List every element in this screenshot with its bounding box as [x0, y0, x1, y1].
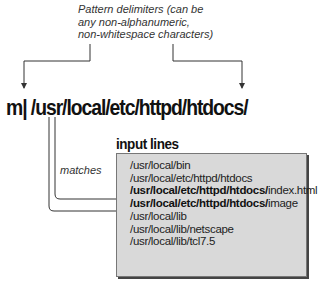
input-line-match: /usr/local/etc/httpd/htdocs/image	[130, 197, 317, 210]
matches-label: matches	[60, 164, 102, 176]
input-line: /usr/local/lib/netscape	[130, 223, 317, 236]
left-delimiter-arrow	[24, 44, 90, 88]
input-line: /usr/local/lib/tcl7.5	[130, 235, 317, 248]
input-lines-title: input lines	[116, 135, 179, 152]
right-delimiter-arrow	[173, 44, 242, 88]
input-line: /usr/local/lib	[130, 210, 317, 223]
input-line: /usr/local/bin	[130, 159, 317, 172]
match-command: m| /usr/local/etc/httpd/htdocs/	[6, 95, 248, 121]
input-lines-list: /usr/local/bin /usr/local/etc/httpd/htdo…	[130, 159, 317, 248]
input-line-match: /usr/local/etc/httpd/htdocs/index.html	[130, 184, 317, 197]
input-line: /usr/local/etc/httpd/htdocs	[130, 172, 317, 185]
